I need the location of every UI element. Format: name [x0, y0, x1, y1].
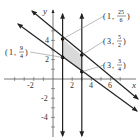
x-tick-label: -2 — [27, 81, 34, 90]
svg-text:(: ( — [103, 12, 106, 21]
x-tick-label: 6 — [108, 81, 112, 90]
svg-text:(: ( — [103, 37, 106, 46]
svg-text:25: 25 — [118, 9, 124, 15]
point-label-1-25-6: ( 1 , 25 6 ) — [103, 9, 130, 23]
svg-text:2: 2 — [118, 42, 121, 48]
svg-text:4: 4 — [118, 66, 121, 72]
graph-plot: -2 2 4 6 x 4 2 -2 -4 y ( 1 , 25 6 ) ( 3 … — [0, 0, 140, 139]
svg-text:3: 3 — [107, 61, 111, 70]
svg-text:1: 1 — [9, 48, 13, 57]
svg-text:5: 5 — [118, 34, 121, 40]
svg-text:): ) — [127, 12, 130, 21]
y-tick-label: -4 — [41, 113, 48, 122]
svg-text:): ) — [25, 48, 28, 57]
svg-text:3: 3 — [118, 58, 121, 64]
svg-text:): ) — [123, 37, 126, 46]
svg-text:,: , — [14, 48, 16, 57]
y-axis-label: y — [42, 6, 47, 16]
x-axis-label: x — [131, 80, 136, 90]
svg-text:9: 9 — [20, 45, 23, 51]
svg-text:,: , — [112, 61, 114, 70]
point-label-3-5-2: ( 3 , 5 2 ) — [103, 34, 126, 48]
y-tick-label: 2 — [45, 55, 49, 64]
y-tick-label: -2 — [41, 94, 48, 103]
svg-text:6: 6 — [120, 17, 123, 23]
svg-text:(: ( — [5, 48, 8, 57]
svg-text:1: 1 — [107, 12, 111, 21]
x-tick-label: 2 — [70, 81, 74, 90]
svg-text:,: , — [112, 12, 114, 21]
point-label-1-9-4: ( 1 , 9 4 ) — [5, 45, 28, 59]
svg-text:): ) — [123, 61, 126, 70]
x-tick-label: 4 — [89, 81, 93, 90]
point-label-3-3-4: ( 3 , 3 4 ) — [103, 58, 126, 72]
svg-text:(: ( — [103, 61, 106, 70]
svg-text:,: , — [112, 37, 114, 46]
svg-text:3: 3 — [107, 37, 111, 46]
svg-text:4: 4 — [20, 53, 23, 59]
